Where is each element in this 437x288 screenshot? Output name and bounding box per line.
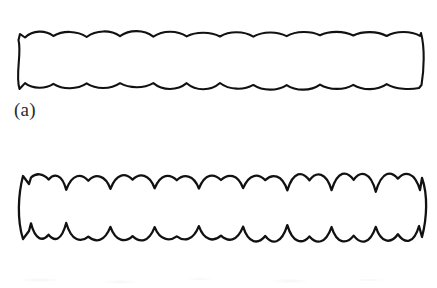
panel-label-a: (a) (14, 100, 36, 119)
scalloped-band-shape-b (19, 174, 426, 242)
scalloped-band-shape-a (18, 31, 424, 90)
figure-page: (a) (b) (0, 0, 437, 288)
figure-b-drawing (0, 144, 437, 288)
figure-panel-a: (a) (0, 0, 437, 144)
figure-panel-b: (b) (0, 144, 437, 288)
figure-a-drawing (0, 0, 437, 144)
